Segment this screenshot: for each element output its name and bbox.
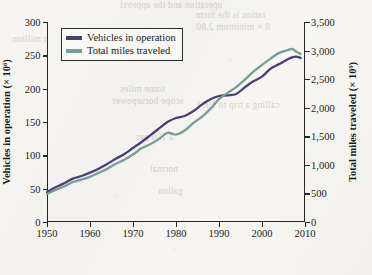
bleedthrough-text: operation and the approxi: [120, 0, 222, 10]
x-axis-tick-label: 1950: [37, 228, 58, 239]
bleedthrough-text: n million: [12, 34, 48, 44]
chart-legend: Vehicles in operation Total miles travel…: [61, 28, 183, 61]
series-line-vehicles-in-operation: [47, 57, 301, 192]
legend-swatch-teal: [66, 49, 82, 52]
y-axis-right-tick-label: 1,500: [311, 131, 335, 142]
y-axis-right-tick: [305, 51, 310, 52]
x-axis-tick: [305, 222, 306, 227]
y-axis-left-tick-label: 50: [30, 183, 41, 194]
y-axis-right-tick: [305, 108, 310, 109]
y-axis-right-tick-label: 2,500: [311, 74, 335, 85]
x-axis-tick: [262, 222, 263, 227]
y-axis-left-tick-label: 250: [25, 50, 41, 61]
y-axis-right-tick: [305, 136, 310, 137]
x-axis-tick-label: 1960: [80, 228, 101, 239]
bleedthrough-text: ration is the form: [196, 10, 265, 20]
x-axis-tick: [133, 222, 134, 227]
x-axis-tick: [219, 222, 220, 227]
y-axis-left-title: Vehicles in operation (× 10⁶): [1, 59, 12, 184]
y-axis-right-tick-label: 0: [311, 217, 316, 228]
x-axis-tick-label: 1980: [166, 228, 187, 239]
legend-label: Vehicles in operation: [87, 32, 176, 44]
y-axis-right-tick-label: 500: [311, 188, 327, 199]
y-axis-right-tick: [305, 79, 310, 80]
y-axis-right-tick: [305, 193, 310, 194]
y-axis-right-tick: [305, 165, 310, 166]
x-axis-tick-label: 2000: [252, 228, 273, 239]
y-axis-left-tick-label: 300: [25, 17, 41, 28]
legend-label: Total miles traveled: [87, 45, 170, 57]
y-axis-right-tick-label: 1,000: [311, 159, 335, 170]
y-axis-right-tick-label: 3,000: [311, 45, 335, 56]
x-axis-tick-label: 1990: [209, 228, 230, 239]
x-axis-tick-label: 1970: [123, 228, 144, 239]
y-axis-left-tick-label: 0: [35, 217, 40, 228]
legend-item-total-miles-traveled: Total miles traveled: [66, 45, 176, 57]
legend-swatch-purple: [66, 36, 82, 39]
legend-item-vehicles-in-operation: Vehicles in operation: [66, 32, 176, 44]
plot-area: 050100150200250300 05001,0001,5002,0002,…: [47, 22, 305, 222]
y-axis-left-tick-label: 150: [25, 117, 41, 128]
y-axis-right-tick-label: 3,500: [311, 17, 335, 28]
x-axis-tick: [47, 222, 48, 227]
x-axis-tick: [90, 222, 91, 227]
y-axis-left-tick-label: 200: [25, 83, 41, 94]
series-line-total-miles-traveled: [47, 49, 301, 194]
y-axis-right-title: Total miles traveled (× 10⁹): [347, 62, 358, 182]
y-axis-right-tick-label: 2,000: [311, 102, 335, 113]
chart-figure: operation and the approxi ration is the …: [0, 0, 372, 275]
x-axis-tick: [176, 222, 177, 227]
y-axis-right-tick: [305, 22, 310, 23]
x-axis-tick-label: 2010: [295, 228, 316, 239]
y-axis-left-tick-label: 100: [25, 150, 41, 161]
